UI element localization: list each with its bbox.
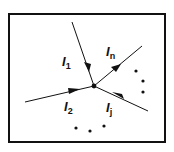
frame (9, 14, 165, 142)
junction-node (92, 84, 97, 89)
current-branch-i1: I1 (62, 22, 94, 86)
current-branch-in: In (94, 44, 142, 86)
label-in: In (106, 44, 115, 61)
label-i2: I2 (64, 99, 73, 116)
ellipsis-right (134, 69, 144, 93)
current-branch-ij: Ij (94, 86, 148, 117)
arrow-icon (68, 88, 80, 94)
label-ij: Ij (106, 100, 112, 117)
kcl-node-diagram: I1 In I2 Ij (0, 0, 174, 152)
arrow-icon (84, 62, 91, 72)
current-branch-i2: I2 (25, 86, 94, 116)
label-i1: I1 (62, 54, 71, 71)
ellipsis-bottom (74, 124, 105, 132)
